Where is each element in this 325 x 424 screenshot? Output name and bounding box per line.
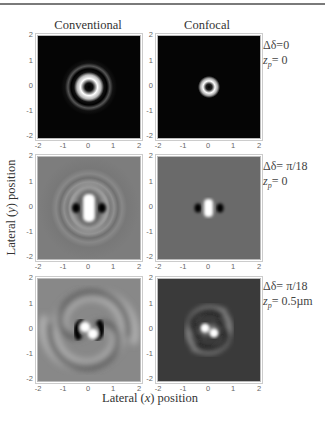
top-rule	[0, 3, 325, 5]
x-tick: -2	[152, 262, 164, 271]
x-tick: 2	[253, 141, 265, 150]
y-tick: 2	[21, 151, 33, 160]
panel-conventional-row1	[37, 35, 141, 139]
x-tick: -1	[177, 141, 189, 150]
x-tick: -1	[57, 384, 69, 393]
x-tick: 1	[107, 141, 119, 150]
y-tick: 1	[141, 299, 153, 308]
y-axis-label: Lateral (y) position	[4, 153, 19, 263]
y-tick: -1	[21, 349, 33, 358]
x-tick: 2	[133, 141, 145, 150]
y-tick: 1	[21, 177, 33, 186]
x-tick: 0	[202, 141, 214, 150]
panel-conventional-row3	[37, 278, 141, 382]
y-tick: -2	[21, 131, 33, 140]
y-tick: -1	[21, 227, 33, 236]
y-tick: 1	[21, 299, 33, 308]
zp-label: zp= 0	[263, 174, 308, 193]
x-tick: -2	[32, 384, 44, 393]
panel-confocal-row2	[157, 156, 261, 260]
x-tick: 1	[227, 384, 239, 393]
y-tick: -1	[21, 106, 33, 115]
x-tick: 0	[82, 141, 94, 150]
y-tick: -1	[141, 106, 153, 115]
x-tick: -2	[152, 141, 164, 150]
delta-label: Δδ= π/18	[263, 159, 308, 174]
x-tick: -1	[57, 262, 69, 271]
y-tick: 1	[21, 56, 33, 65]
psf-dipole-image	[158, 157, 260, 259]
x-tick: 2	[133, 262, 145, 271]
y-tick: 0	[141, 81, 153, 90]
x-axis-label: Lateral (x) position	[90, 391, 210, 406]
row1-parameter-label: Δδ=0 zp= 0	[263, 38, 289, 72]
column-title-confocal: Confocal	[147, 18, 267, 33]
y-tick: -1	[141, 227, 153, 236]
x-tick: -2	[32, 141, 44, 150]
y-tick: 2	[141, 273, 153, 282]
y-tick: 0	[21, 81, 33, 90]
x-tick: -2	[32, 262, 44, 271]
y-tick: 0	[21, 324, 33, 333]
y-tick: 2	[21, 273, 33, 282]
psf-spiral-image	[38, 279, 140, 381]
zp-label: zp= 0.5µm	[263, 294, 313, 313]
zp-label: zp= 0	[263, 53, 289, 72]
y-tick: -2	[141, 131, 153, 140]
delta-label: Δδ=0	[263, 38, 289, 53]
y-tick: 2	[141, 151, 153, 160]
x-tick: -1	[57, 141, 69, 150]
x-tick: 2	[253, 384, 265, 393]
y-tick: 1	[141, 177, 153, 186]
panel-conventional-row2	[37, 156, 141, 260]
x-tick: 0	[82, 262, 94, 271]
y-tick: 2	[21, 30, 33, 39]
x-tick: 1	[107, 262, 119, 271]
y-tick: 0	[21, 202, 33, 211]
y-tick: 0	[141, 202, 153, 211]
row2-parameter-label: Δδ= π/18 zp= 0	[263, 159, 308, 193]
column-title-conventional: Conventional	[28, 18, 148, 33]
psf-dipole-image	[38, 157, 140, 259]
x-tick: 2	[253, 262, 265, 271]
panel-confocal-row3	[157, 278, 261, 382]
y-tick: -2	[21, 374, 33, 383]
y-tick: -2	[141, 252, 153, 261]
psf-donut-image	[38, 36, 140, 138]
delta-label: Δδ= π/18	[263, 279, 313, 294]
x-tick: 1	[227, 262, 239, 271]
y-tick: -1	[141, 349, 153, 358]
y-tick: -2	[21, 252, 33, 261]
psf-donut-image	[158, 36, 260, 138]
y-tick: 1	[141, 56, 153, 65]
row3-parameter-label: Δδ= π/18 zp= 0.5µm	[263, 279, 313, 313]
x-tick: 0	[202, 262, 214, 271]
panel-confocal-row1	[157, 35, 261, 139]
x-tick: 1	[227, 141, 239, 150]
y-tick: 2	[141, 30, 153, 39]
y-tick: -2	[141, 374, 153, 383]
x-tick: -1	[177, 262, 189, 271]
psf-spiral-image	[158, 279, 260, 381]
y-tick: 0	[141, 324, 153, 333]
